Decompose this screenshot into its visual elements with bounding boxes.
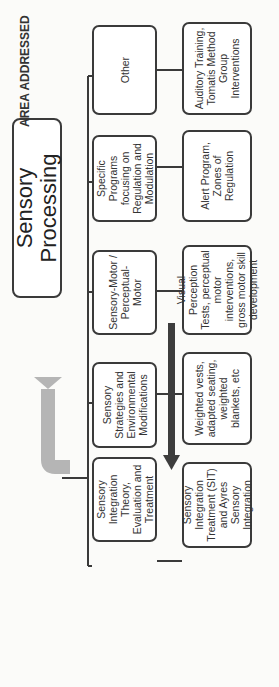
diagram-canvas: Sensory Processing AREA ADDRESSED MODELS…	[0, 0, 279, 687]
model-box-sensory-integration: Sensory Integration Theory, Evaluation a…	[92, 457, 157, 542]
model-box-sensory-motor: Sensory-Motor / Perceptual-Motor	[92, 250, 157, 335]
model-box-specific-programs: Specific Programs focusing on Regulation…	[92, 135, 157, 222]
example-box-auditory-training: Auditory Training, Tomatis Method Group …	[182, 22, 252, 115]
example-box-sit-ayres: Sensory Integration Treatment (SIT) and …	[182, 462, 252, 548]
feedback-arrow	[34, 377, 70, 467]
direction-arrow	[163, 323, 180, 470]
root-label: Sensory Processing	[13, 123, 61, 293]
model-box-other: Other	[92, 25, 157, 115]
root-node-sensory-processing: Sensory Processing	[12, 118, 62, 298]
example-box-alert-program: Alert Program, Zones of Regulation	[182, 130, 252, 222]
example-box-visual-perception: Visual Perception Tests, perceptual moto…	[182, 245, 252, 335]
example-box-weighted-vests: Weighted vests, adapted seating, weighte…	[182, 352, 252, 445]
row-label-area-addressed: AREA ADDRESSED	[18, 15, 32, 127]
model-box-sensory-strategies: Sensory Strategies and Environmental Mod…	[92, 362, 157, 448]
